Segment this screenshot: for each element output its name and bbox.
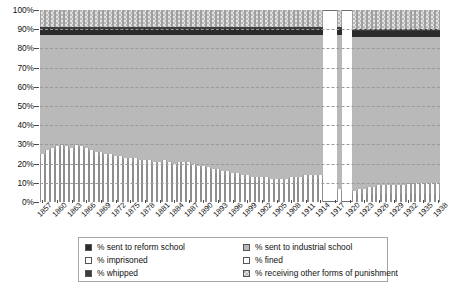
legend-label: % sent to industrial school (255, 242, 352, 253)
plot-area (40, 10, 440, 202)
y-axis-tick (34, 48, 39, 49)
x-axis: 1857186018631866186918721875187818811884… (40, 203, 440, 237)
x-axis-tick (203, 200, 204, 203)
legend-label: % fined (255, 255, 283, 266)
bar-segment (435, 10, 440, 29)
y-axis-tick (34, 164, 39, 165)
y-axis-tick-label: 10% (0, 179, 34, 187)
y-axis-tick (34, 144, 39, 145)
legend-item: % whipped (85, 268, 243, 279)
legend-label: % receiving other forms of punishment (255, 268, 398, 279)
x-axis-tick (335, 200, 336, 203)
y-axis-tick (34, 29, 39, 30)
x-axis-tick (57, 200, 58, 203)
x-axis-tick-label: 1938 (432, 201, 450, 219)
y-axis-tick-label: 90% (0, 25, 34, 33)
x-axis-tick (189, 200, 190, 203)
legend-label: % imprisoned (97, 255, 148, 266)
legend-item: % fined (243, 255, 398, 266)
legend-label: % sent to reform school (97, 242, 185, 253)
x-axis-tick (233, 200, 234, 203)
y-axis-tick-label: 100% (0, 6, 34, 14)
y-axis-tick-label: 60% (0, 83, 34, 91)
gridline (40, 68, 440, 69)
legend-swatch-imprisoned (85, 257, 92, 264)
x-axis-tick (130, 200, 131, 203)
y-axis-tick (34, 125, 39, 126)
y-axis-tick (34, 202, 39, 203)
y-axis-tick (34, 87, 39, 88)
x-axis-tick (86, 200, 87, 203)
y-axis-tick (34, 10, 39, 11)
gridline (40, 183, 440, 184)
x-axis-tick (262, 200, 263, 203)
x-axis-tick (350, 200, 351, 203)
x-axis-tick (174, 200, 175, 203)
gridline (40, 144, 440, 145)
x-axis-tick (247, 200, 248, 203)
x-axis-tick (379, 200, 380, 203)
gridline (40, 164, 440, 165)
legend-swatch-fined (243, 257, 250, 264)
legend-item: % sent to reform school (85, 242, 243, 253)
gridline (40, 29, 440, 30)
legend-item: % sent to industrial school (243, 242, 398, 253)
legend-item: % imprisoned (85, 255, 243, 266)
bar-segment (435, 37, 440, 183)
legend-item: % receiving other forms of punishment (243, 268, 398, 279)
chart-legend: % sent to reform school% sent to industr… (78, 237, 388, 282)
gridline (40, 48, 440, 49)
x-axis-tick (72, 200, 73, 203)
gridline (40, 87, 440, 88)
y-axis-tick-label: 20% (0, 160, 34, 168)
y-axis-tick-label: 40% (0, 121, 34, 129)
legend-label: % whipped (97, 268, 138, 279)
x-axis-tick (438, 200, 439, 203)
gridline (40, 106, 440, 107)
y-axis-tick (34, 68, 39, 69)
x-axis-tick (394, 200, 395, 203)
x-axis-tick (116, 200, 117, 203)
y-axis-tick-label: 50% (0, 102, 34, 110)
bar-segment (435, 183, 440, 195)
y-axis-tick-label: 80% (0, 44, 34, 52)
x-axis-tick (101, 200, 102, 203)
y-axis-tick (34, 183, 39, 184)
legend-swatch-whipped (85, 270, 92, 277)
y-axis-tick-label: 30% (0, 140, 34, 148)
y-axis-tick-label: 70% (0, 64, 34, 72)
x-axis-tick (408, 200, 409, 203)
x-axis-tick (364, 200, 365, 203)
gridline (40, 125, 440, 126)
x-axis-tick (306, 200, 307, 203)
x-axis-tick (291, 200, 292, 203)
legend-swatch-reform (85, 244, 92, 251)
x-axis-tick (145, 200, 146, 203)
y-axis-tick-label: 0% (0, 198, 34, 206)
x-axis-tick (42, 200, 43, 203)
x-axis-tick (218, 200, 219, 203)
legend-swatch-industrial (243, 244, 250, 251)
y-axis-tick (34, 106, 39, 107)
stacked-bar-chart: 100%90%80%70%60%50%40%30%20%10%0% 185718… (0, 0, 451, 291)
x-axis-tick (160, 200, 161, 203)
x-axis-tick (423, 200, 424, 203)
legend-swatch-other (243, 270, 250, 277)
x-axis-tick (277, 200, 278, 203)
